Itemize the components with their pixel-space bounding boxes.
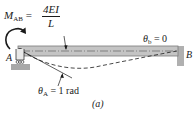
moment-symbol: M	[4, 9, 13, 21]
theta-a-label: θA = 1 rad	[38, 86, 79, 98]
fraction-numerator: 4EI	[42, 4, 60, 17]
theta-a-arrowhead	[60, 73, 64, 78]
theta-a-value: = 1 rad	[50, 85, 78, 96]
moment-equals: =	[26, 9, 32, 21]
theta-b-label: θb = 0	[143, 34, 167, 46]
fraction-denominator: L	[48, 17, 54, 29]
point-b-label: B	[186, 50, 192, 60]
moment-label: MAB =	[4, 10, 32, 23]
figure-caption: (a)	[92, 99, 104, 109]
point-a-label: A	[6, 53, 12, 63]
theta-a-subscript: A	[43, 90, 48, 98]
pin-bracket	[16, 49, 24, 60]
ground-a	[11, 64, 30, 70]
moment-subscript: AB	[13, 15, 23, 23]
moment-fraction: 4EI L	[42, 4, 60, 29]
theta-b-value: = 0	[154, 33, 167, 44]
roller-3	[21, 61, 24, 64]
theta-b-subscript: b	[148, 38, 152, 46]
